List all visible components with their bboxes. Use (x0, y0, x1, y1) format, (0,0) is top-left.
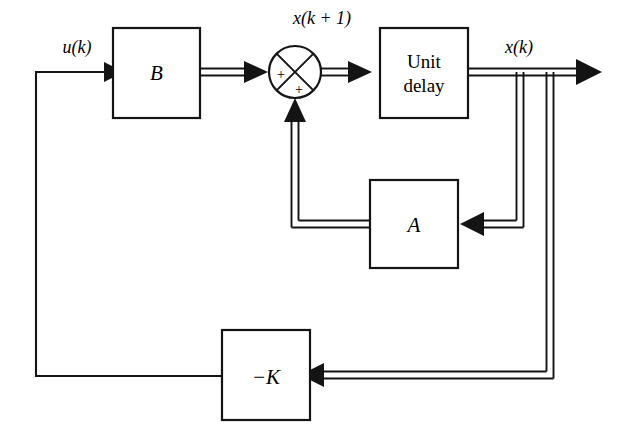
connection-sum-to-delay (321, 61, 372, 83)
sum-sign-left: + (277, 67, 285, 82)
block-unit-delay-label-line2: delay (403, 75, 445, 96)
block-B-label: B (150, 61, 163, 85)
arrow-head-into-sum-from-A (284, 98, 306, 122)
arrow-head-into-unit-delay (348, 61, 372, 83)
sum-sign-bottom: + (295, 82, 303, 97)
block-minus-K[interactable]: −K (222, 330, 310, 420)
block-unit-delay[interactable]: Unit delay (380, 28, 468, 118)
summing-junction[interactable]: + + (269, 46, 321, 98)
arrow-head-output (576, 59, 602, 85)
block-B[interactable]: B (113, 28, 200, 118)
block-minus-K-label: −K (252, 365, 281, 389)
arrow-head-into-A (460, 212, 484, 236)
signal-label-x-k-plus-1: x(k + 1) (292, 8, 351, 29)
connection-branch-to-A (460, 72, 524, 236)
signal-label-u-k: u(k) (63, 37, 92, 58)
block-A[interactable]: A (370, 180, 458, 268)
block-A-label: A (406, 213, 421, 237)
connection-B-to-sum (200, 61, 268, 83)
signal-label-x-k: x(k) (504, 37, 533, 58)
block-unit-delay-label-line1: Unit (407, 51, 442, 72)
connection-A-to-sum (284, 98, 370, 228)
block-diagram-canvas: B Unit delay A −K + + u(k) x(k + 1) (0, 0, 618, 439)
arrow-head-into-sum (244, 61, 268, 83)
connection-delay-to-output (468, 59, 602, 85)
block-diagram-svg: B Unit delay A −K + + u(k) x(k + 1) (0, 0, 618, 439)
